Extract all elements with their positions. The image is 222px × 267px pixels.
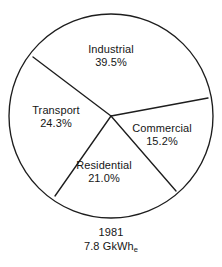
pie-divider-industrial-commercial (111, 98, 208, 116)
pie-slice-value-residential: 21.0% (76, 172, 132, 185)
pie-slice-label-transport: Transport 24.3% (32, 104, 80, 131)
caption-total: 7.8 GkWhe (84, 240, 138, 254)
caption-total-value: 7.8 GkWh (84, 240, 134, 252)
pie-slice-value-industrial: 39.5% (88, 56, 134, 69)
caption-total-subscript: e (134, 245, 138, 254)
pie-slice-label-industrial: Industrial 39.5% (88, 43, 134, 70)
pie-slice-name-commercial: Commercial (132, 122, 192, 135)
pie-slice-name-residential: Residential (76, 159, 132, 172)
pie-slice-value-transport: 24.3% (32, 117, 80, 130)
pie-slice-value-commercial: 15.2% (132, 135, 192, 148)
pie-slice-label-residential: Residential 21.0% (76, 159, 132, 186)
pie-slice-name-transport: Transport (32, 104, 80, 117)
caption-year: 1981 (84, 226, 138, 240)
pie-slice-name-industrial: Industrial (88, 43, 134, 56)
pie-chart-figure: Industrial 39.5% Transport 24.3% Commerc… (0, 0, 222, 267)
figure-caption: 1981 7.8 GkWhe (84, 226, 138, 254)
pie-slice-label-commercial: Commercial 15.2% (132, 122, 192, 149)
